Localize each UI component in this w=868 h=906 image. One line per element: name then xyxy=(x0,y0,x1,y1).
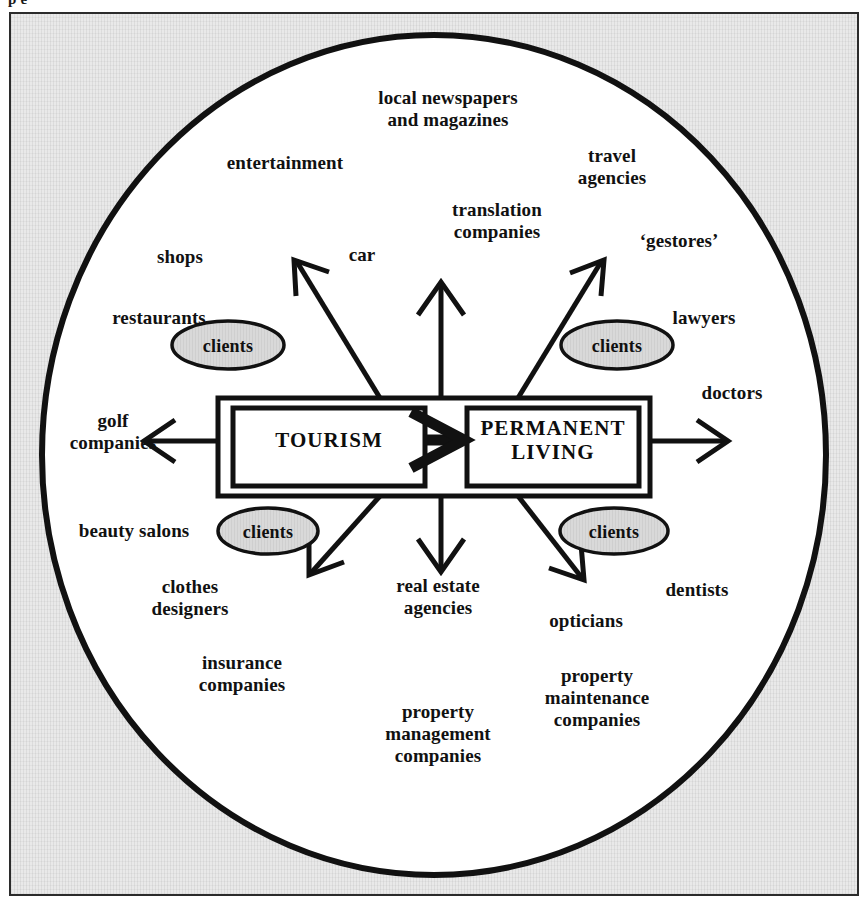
service-label-shops: shops xyxy=(157,246,203,268)
clients-label-bottom-left: clients xyxy=(243,522,293,543)
service-label-clothes-designers: clothes designers xyxy=(152,576,229,620)
service-label-restaurants: restaurants xyxy=(112,307,206,329)
service-label-golf-companies: golf companies xyxy=(70,410,156,454)
service-label-doctors: doctors xyxy=(702,382,763,404)
service-label-opticians: opticians xyxy=(549,610,623,632)
clients-label-bottom-right: clients xyxy=(589,522,639,543)
service-label-entertainment: entertainment xyxy=(227,152,343,174)
clients-label-top-right: clients xyxy=(592,336,642,357)
service-label-property-maintenance-companies: property maintenance companies xyxy=(545,665,650,731)
permanent-living-box-label: PERMANENT LIVING xyxy=(480,417,625,464)
service-label-translation-companies: translation companies xyxy=(452,199,542,243)
service-label-property-management-companies: property management companies xyxy=(385,701,490,767)
service-label-real-estate-agencies: real estate agencies xyxy=(396,575,480,619)
service-label-lawyers: lawyers xyxy=(673,307,736,329)
service-label-dentists: dentists xyxy=(665,579,728,601)
tourism-box-label: TOURISM xyxy=(275,429,383,453)
service-label-local-newspapers-and-magazines: local newspapers and magazines xyxy=(378,87,517,131)
clients-label-top-left: clients xyxy=(203,336,253,357)
service-label-insurance-companies: insurance companies xyxy=(199,652,285,696)
diagram-page: p e xyxy=(0,0,868,906)
service-label-gestores: ‘gestores’ xyxy=(640,230,719,252)
service-label-beauty-salons: beauty salons xyxy=(79,520,190,542)
service-label-car: car xyxy=(349,244,376,266)
service-label-travel-agencies: travel agencies xyxy=(578,145,646,189)
